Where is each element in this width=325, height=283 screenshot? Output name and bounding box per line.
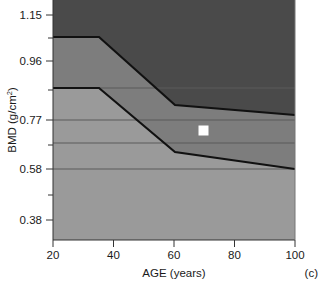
bmd-age-figure: 1.15 0.96 0.77 0.58 0.38 20 40 60 80 100… [0,0,325,283]
y-tick-label-058: 0.58 [20,163,42,175]
y-tick-label-077: 0.77 [20,114,42,126]
bmd-age-chart: 1.15 0.96 0.77 0.58 0.38 20 40 60 80 100… [0,0,325,283]
y-axis-minor-ticks [48,38,53,195]
y-tick-label-115: 1.15 [20,9,42,21]
x-axis-tick-labels: 20 40 60 80 100 [47,249,305,261]
x-tick-label-20: 20 [47,249,60,261]
svg-text:BMD (g/cm2): BMD (g/cm2) [5,87,18,153]
y-axis-title-base: BMD (g/cm [6,95,18,153]
x-tick-label-100: 100 [285,249,304,261]
plot-regions [53,0,295,240]
y-axis-title: BMD (g/cm2) [5,87,18,153]
x-tick-label-80: 80 [228,249,241,261]
y-axis-title-close: ) [6,87,18,91]
x-tick-label-60: 60 [168,249,181,261]
x-axis-ticks [53,240,295,247]
y-tick-label-096: 0.96 [20,55,42,67]
y-axis-major-ticks [46,15,53,220]
x-axis-title: AGE (years) [142,267,205,279]
y-tick-label-038: 0.38 [20,214,42,226]
x-tick-label-40: 40 [107,249,120,261]
y-axis-tick-labels: 1.15 0.96 0.77 0.58 0.38 [20,9,42,226]
patient-marker [199,126,209,136]
panel-label: (c) [305,267,319,279]
